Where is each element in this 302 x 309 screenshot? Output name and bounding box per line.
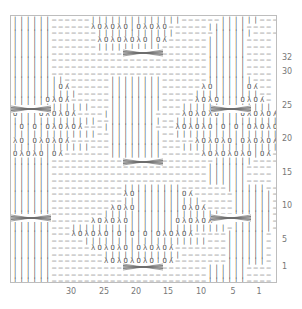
stitch-label-10: 10 <box>196 288 206 296</box>
cable-cross-icon <box>123 263 163 271</box>
cable-cross-icon <box>211 105 251 113</box>
stitch-label-30: 30 <box>66 288 76 296</box>
stitch-label-25: 25 <box>99 288 109 296</box>
row-label-1: 1 <box>282 263 287 271</box>
cable-cross-icon <box>123 49 163 57</box>
knitting-chart-grid: ||||||––––––||||||||||||||––––––||||||––… <box>10 15 277 283</box>
cable-cross-icon <box>11 214 51 222</box>
stitch-label-1: 1 <box>256 288 261 296</box>
stitch-label-5: 5 <box>230 288 235 296</box>
cable-cross-icon <box>211 214 251 222</box>
stitch-label-15: 15 <box>163 288 173 296</box>
row-label-5: 5 <box>282 236 287 244</box>
row-label-10: 10 <box>282 202 292 210</box>
row-label-30: 30 <box>282 68 292 76</box>
row-label-20: 20 <box>282 135 292 143</box>
cable-cross-icon <box>11 105 51 113</box>
row-label-32: 32 <box>282 54 292 62</box>
cable-cross-icon <box>123 158 163 166</box>
row-label-15: 15 <box>282 169 292 177</box>
row-label-25: 25 <box>282 102 292 110</box>
stitch-label-20: 20 <box>131 288 141 296</box>
